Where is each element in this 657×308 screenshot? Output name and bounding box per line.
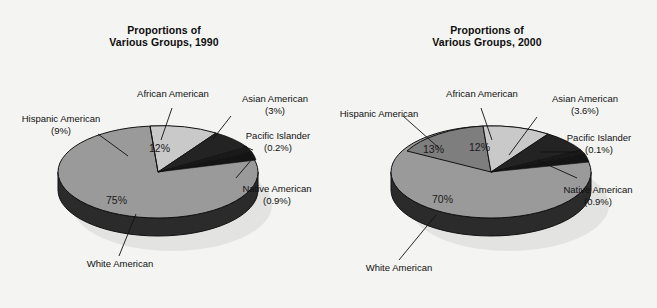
slice-value-african-american-1990: 12% [149, 142, 170, 154]
slice-value-african-american-2000: 12% [469, 141, 490, 153]
chart-panel-1990: Proportions of Various Groups, 1990 [0, 0, 328, 308]
callout-native-american-2000: Native American (0.9%) [545, 184, 651, 207]
callout-african-american-1990: African American [118, 88, 228, 100]
callout-hispanic-american-2000: Hispanic American [323, 108, 435, 120]
callout-african-american-2000: African American [427, 88, 537, 100]
callout-asian-american-2000: Asian American (3.6%) [533, 93, 637, 116]
callout-white-american-2000: White American [339, 262, 459, 274]
slice-value-white-american-1990: 75% [106, 194, 127, 206]
callout-native-american-1990: Native American (0.9%) [226, 183, 328, 206]
chart-panel-2000: Proportions of Various Groups, 2000 13% … [329, 0, 657, 308]
slice-value-white-american-2000: 70% [432, 193, 453, 205]
callout-asian-american-1990: Asian American (3%) [225, 93, 325, 116]
callout-white-american-1990: White American [60, 258, 180, 270]
slice-value-hispanic-american-2000: 13% [423, 143, 444, 155]
callout-pacific-islander-2000: Pacific Islander (0.1%) [547, 132, 651, 155]
callout-pacific-islander-1990: Pacific Islander (0.2%) [228, 130, 328, 153]
figure-canvas: Proportions of Various Groups, 1990 [0, 0, 657, 308]
callout-hispanic-american-1990: Hispanic American (9%) [6, 113, 116, 136]
